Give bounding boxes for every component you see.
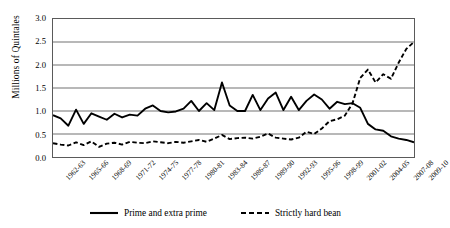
x-tick-label: 1968-69 — [111, 159, 134, 182]
x-tick-label: 2004-05 — [389, 159, 412, 182]
x-tick-label: 1992-93 — [296, 159, 319, 182]
x-tick-label: 1965-66 — [87, 159, 110, 182]
x-tick-label: 1977-78 — [180, 159, 203, 182]
x-tick-label: 1998-99 — [342, 159, 365, 182]
x-tick-label: 2001-02 — [365, 159, 388, 182]
series-line-strictly-hard-bean — [53, 42, 414, 147]
plot-area — [52, 18, 415, 158]
y-tick-label: 3.0 — [22, 14, 46, 22]
legend-swatch-dashed-line — [241, 209, 269, 217]
x-tick-label: 1989-90 — [273, 159, 296, 182]
y-tick-label: 0.5 — [22, 131, 46, 139]
plot-svg — [53, 19, 414, 157]
x-tick-label: 1980-81 — [203, 159, 226, 182]
x-tick-label: 1986-87 — [250, 159, 273, 182]
y-tick-label: 1.0 — [22, 107, 46, 115]
series-line-prime-and-extra-prime — [53, 82, 414, 142]
y-tick-label: 1.5 — [22, 84, 46, 92]
data-series-group — [53, 42, 414, 147]
y-tick-label: 2.5 — [22, 37, 46, 45]
legend-item-prime-and-extra-prime: Prime and extra prime — [90, 208, 207, 218]
x-axis-tick-labels: 1962-631965-661968-691971-721974-751977-… — [0, 159, 431, 205]
x-tick-label: 1995-96 — [319, 159, 342, 182]
legend-swatch-solid-line — [90, 209, 118, 217]
chart-legend: Prime and extra prime Strictly hard bean — [0, 203, 431, 223]
legend-label-prime-and-extra-prime: Prime and extra prime — [124, 208, 207, 218]
y-tick-label: 2.0 — [22, 61, 46, 69]
x-tick-label: 1971-72 — [134, 159, 157, 182]
x-tick-label: 1974-75 — [157, 159, 180, 182]
x-tick-label: 1983-84 — [226, 159, 249, 182]
x-tick-label: 1962-63 — [64, 159, 87, 182]
legend-label-strictly-hard-bean: Strictly hard bean — [275, 208, 341, 218]
legend-item-strictly-hard-bean: Strictly hard bean — [241, 208, 341, 218]
